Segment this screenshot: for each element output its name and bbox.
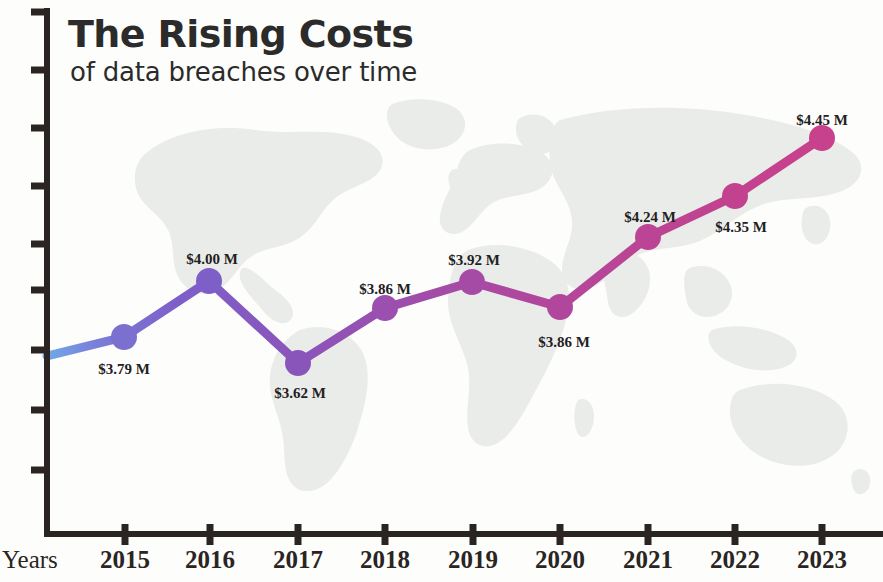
x-axis-label-2016: 2016 bbox=[185, 546, 235, 574]
chart-canvas: The Rising Costs of data breaches over t… bbox=[0, 0, 883, 582]
x-axis-label-2015: 2015 bbox=[100, 546, 150, 574]
value-label-2015: $3.79 M bbox=[98, 361, 150, 378]
x-axis-name: Years bbox=[2, 546, 58, 574]
x-axis-label-2017: 2017 bbox=[273, 546, 323, 574]
value-label-2019: $3.92 M bbox=[448, 252, 500, 269]
chart-axes bbox=[0, 0, 883, 582]
value-label-2023: $4.45 M bbox=[796, 112, 848, 129]
x-axis-label-2020: 2020 bbox=[535, 546, 585, 574]
x-axis-label-2021: 2021 bbox=[623, 546, 673, 574]
value-label-2021: $4.24 M bbox=[624, 209, 676, 226]
page-title: The Rising Costs bbox=[68, 14, 417, 54]
value-label-2016: $4.00 M bbox=[186, 251, 238, 268]
value-label-2022: $4.35 M bbox=[715, 219, 767, 236]
title-block: The Rising Costs of data breaches over t… bbox=[68, 14, 417, 87]
x-axis-label-2023: 2023 bbox=[797, 546, 847, 574]
page-subtitle: of data breaches over time bbox=[70, 58, 417, 87]
value-label-2020: $3.86 M bbox=[538, 334, 590, 351]
value-label-2018: $3.86 M bbox=[359, 281, 411, 298]
x-axis-label-2019: 2019 bbox=[448, 546, 498, 574]
x-axis-label-2018: 2018 bbox=[360, 546, 410, 574]
x-axis-label-2022: 2022 bbox=[710, 546, 760, 574]
value-label-2017: $3.62 M bbox=[274, 385, 326, 402]
